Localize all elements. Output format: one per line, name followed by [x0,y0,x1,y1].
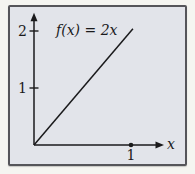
y-tick-label: 1 [18,80,27,96]
x-axis-arrow [155,142,164,149]
graph-canvas: 121f(x) = 2xx [10,7,185,164]
y-tick-label: 2 [18,23,27,39]
y-axis-arrow [31,13,38,22]
graph-panel: 121f(x) = 2xx [8,5,187,166]
x-axis-label: x [167,136,175,152]
function-label: f(x) = 2x [55,22,118,38]
page-background: 121f(x) = 2xx [0,0,195,174]
function-line [34,29,133,145]
x-tick-label: 1 [127,147,136,163]
